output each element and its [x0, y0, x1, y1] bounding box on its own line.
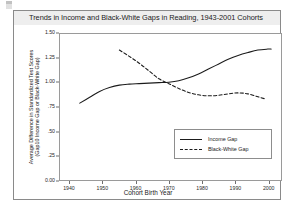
x-tick-mark	[69, 181, 70, 184]
x-tick-mark	[136, 181, 137, 184]
legend-item-income-gap: Income Gap	[180, 134, 266, 144]
x-tick-mark	[269, 181, 270, 184]
y-tick-label: 1.25	[45, 55, 55, 60]
x-tick-mark	[169, 181, 170, 184]
series-line-black-white-gap	[119, 50, 264, 99]
chart-title: Trends in Income and Black-White Gaps in…	[29, 13, 263, 22]
y-tick-label: 0.00	[45, 178, 55, 183]
y-tick-label: .25	[48, 154, 55, 159]
y-axis: 0.00.25.50.751.001.251.50	[14, 11, 59, 181]
y-tick-label: 1.50	[45, 30, 55, 35]
legend-line-solid-icon	[180, 136, 202, 142]
y-tick-label: .75	[48, 104, 55, 109]
series-line-income-gap	[80, 49, 271, 103]
x-tick-mark	[102, 181, 103, 184]
y-tick-label: 1.00	[45, 80, 55, 85]
chart-graph-frame: Trends in Income and Black-White Gaps in…	[13, 10, 281, 200]
x-tick-mark	[202, 181, 203, 184]
legend-line-dashed-icon	[180, 146, 202, 152]
figure-root: Trends in Income and Black-White Gaps in…	[0, 0, 293, 216]
legend-item-black-white-gap: Black-White Gap	[180, 144, 266, 154]
page-artifact-speck	[6, 1, 12, 9]
chart-legend: Income Gap Black-White Gap	[174, 129, 272, 159]
x-axis-title: Cohort Birth Year	[14, 189, 282, 197]
x-tick-mark	[235, 181, 236, 184]
legend-label-black-white-gap: Black-White Gap	[208, 146, 248, 152]
legend-label-income-gap: Income Gap	[208, 136, 237, 142]
y-tick-label: .50	[48, 129, 55, 134]
